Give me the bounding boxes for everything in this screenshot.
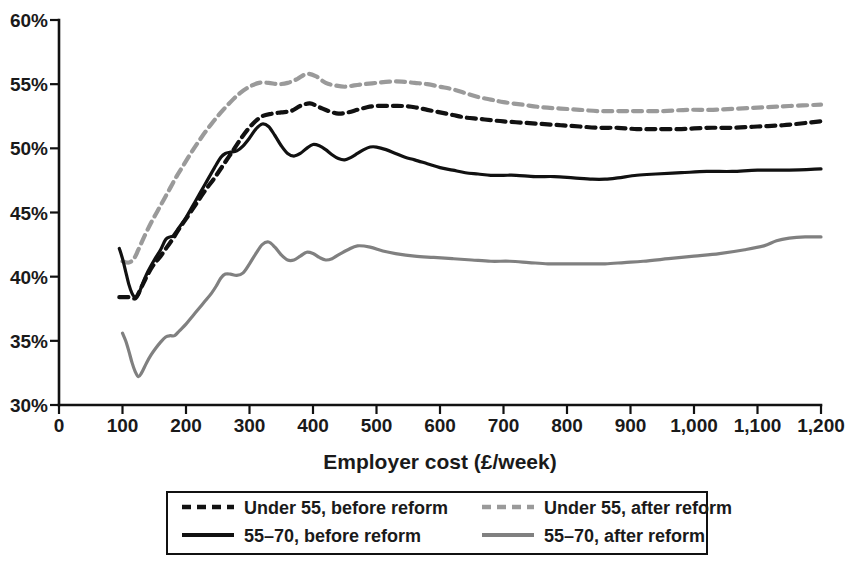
x-tick-label: 1,100	[734, 415, 782, 436]
x-tick-label: 600	[424, 415, 456, 436]
x-tick-label: 400	[297, 415, 329, 436]
y-tick-label: 55%	[10, 74, 48, 95]
x-axis-title: Employer cost (£/week)	[323, 450, 556, 473]
y-tick-label: 40%	[10, 267, 48, 288]
x-axis-tick-labels: 01002003004005006007008009001,0001,1001,…	[54, 415, 845, 436]
y-tick-label: 60%	[10, 10, 48, 31]
y-tick-label: 30%	[10, 395, 48, 416]
x-tick-label: 0	[54, 415, 65, 436]
legend-label: Under 55, after reform	[544, 498, 732, 518]
x-tick-label: 300	[234, 415, 266, 436]
series-line-3	[119, 124, 821, 297]
chart-container: 30%35%40%45%50%55%60% 010020030040050060…	[0, 0, 846, 562]
series-line-1	[119, 103, 821, 298]
y-tick-label: 35%	[10, 331, 48, 352]
line-chart: 30%35%40%45%50%55%60% 010020030040050060…	[0, 0, 846, 562]
legend-label: 55–70, before reform	[244, 526, 421, 546]
legend-label: Under 55, before reform	[244, 498, 448, 518]
x-tick-label: 100	[107, 415, 139, 436]
series-line-2	[123, 74, 822, 263]
series-line-4	[123, 237, 822, 377]
x-tick-label: 900	[615, 415, 647, 436]
legend-label: 55–70, after reform	[544, 526, 705, 546]
y-axis-tick-labels: 30%35%40%45%50%55%60%	[10, 10, 48, 416]
x-tick-label: 800	[551, 415, 583, 436]
x-tick-label: 1,000	[670, 415, 718, 436]
x-tick-label: 700	[488, 415, 520, 436]
x-tick-label: 500	[361, 415, 393, 436]
y-tick-label: 45%	[10, 203, 48, 224]
y-tick-label: 50%	[10, 138, 48, 159]
x-axis-tick-marks	[59, 405, 821, 414]
y-axis-tick-marks	[50, 20, 59, 405]
data-series-group	[119, 74, 821, 377]
x-tick-label: 200	[170, 415, 202, 436]
x-tick-label: 1,200	[797, 415, 845, 436]
